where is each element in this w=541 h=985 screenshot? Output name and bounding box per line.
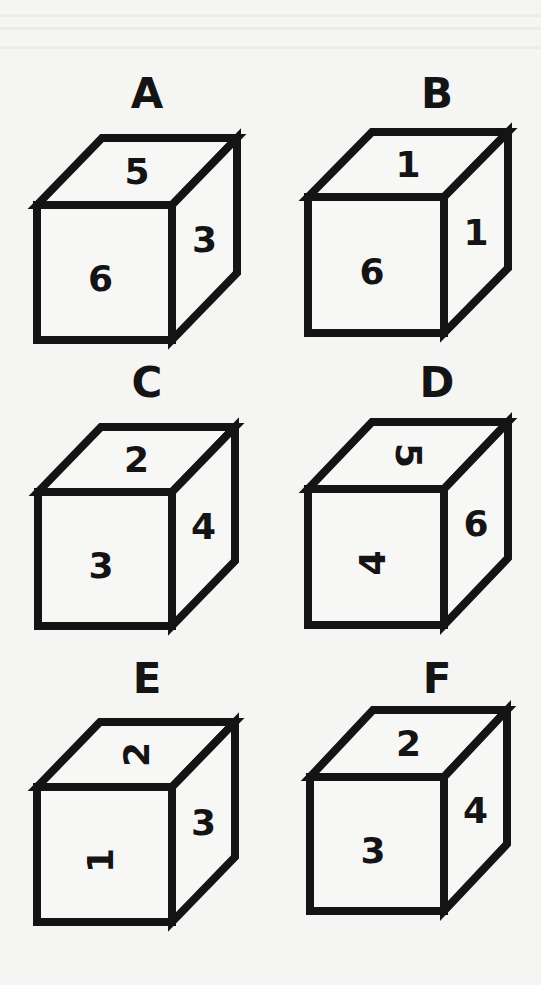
right-number: 6	[463, 503, 488, 544]
cube-label: D	[420, 358, 455, 407]
front-number: 4	[352, 550, 393, 575]
cube-label: A	[131, 69, 164, 118]
top-number: 5	[124, 151, 149, 192]
right-number: 4	[191, 506, 216, 547]
front-number: 6	[88, 258, 113, 299]
front-number: 1	[80, 848, 121, 873]
right-number: 4	[463, 790, 488, 831]
top-number: 2	[396, 723, 421, 764]
cube-f: F234	[310, 654, 507, 911]
cube-e: E213	[37, 654, 235, 922]
cube-a: A563	[37, 69, 237, 340]
cube-label: C	[132, 358, 163, 407]
front-number: 6	[359, 251, 384, 292]
cube-b: B161	[308, 69, 508, 333]
top-number: 2	[124, 439, 149, 480]
cube-c: C234	[38, 358, 235, 626]
front-number: 3	[360, 830, 385, 871]
top-number: 5	[388, 443, 429, 468]
right-number: 3	[192, 219, 217, 260]
cube-d: D546	[308, 358, 508, 625]
cube-label: F	[423, 654, 452, 703]
top-number: 1	[395, 144, 420, 185]
top-number: 2	[116, 742, 157, 767]
front-number: 3	[88, 545, 113, 586]
cube-puzzle-diagram: A563B161C234D546E213F234	[0, 0, 541, 985]
cube-label: E	[133, 654, 162, 703]
right-number: 1	[463, 212, 488, 253]
cube-label: B	[421, 69, 453, 118]
right-number: 3	[191, 802, 216, 843]
